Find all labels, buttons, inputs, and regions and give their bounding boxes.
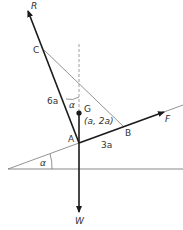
force-diagram: α α R C 6a G (a, 2a) A B 3a F W <box>0 0 183 230</box>
length-label-AB: 3a <box>101 140 112 150</box>
centre-of-mass-dot <box>76 110 81 115</box>
length-label-AC: 6a <box>47 96 58 106</box>
point-label-B: B <box>125 128 131 138</box>
point-label-A: A <box>68 134 75 144</box>
force-label-F: F <box>165 114 171 124</box>
point-label-G: G <box>84 104 91 114</box>
angle-label-bottom: α <box>40 158 46 168</box>
point-label-C: C <box>33 45 39 55</box>
rod-AC-R <box>28 11 79 143</box>
line-F-extension <box>164 105 183 112</box>
angle-arc-bottom <box>50 154 52 169</box>
coords-label-G: (a, 2a) <box>84 116 114 126</box>
force-label-W: W <box>75 216 85 226</box>
angle-label-top: α <box>69 100 75 110</box>
force-label-R: R <box>31 1 37 11</box>
line-CB <box>44 50 123 126</box>
